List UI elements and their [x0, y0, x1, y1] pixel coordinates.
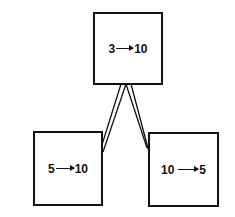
node-left: 5 10: [33, 131, 103, 206]
from-value: 5: [48, 162, 55, 176]
node-right-label: 10 5: [161, 163, 206, 177]
arrow-right-icon: [56, 168, 74, 169]
to-value: 5: [199, 163, 206, 177]
from-value: 3: [108, 42, 115, 56]
to-value: 10: [75, 162, 88, 176]
node-top-label: 3 10: [108, 42, 147, 56]
arrow-right-icon: [116, 48, 133, 49]
node-right: 10 5: [148, 132, 219, 207]
arrow-right-icon: [178, 169, 198, 170]
to-value: 10: [134, 42, 147, 56]
from-value: 10: [161, 163, 174, 177]
node-left-label: 5 10: [48, 162, 88, 176]
node-top: 3 10: [93, 12, 163, 85]
